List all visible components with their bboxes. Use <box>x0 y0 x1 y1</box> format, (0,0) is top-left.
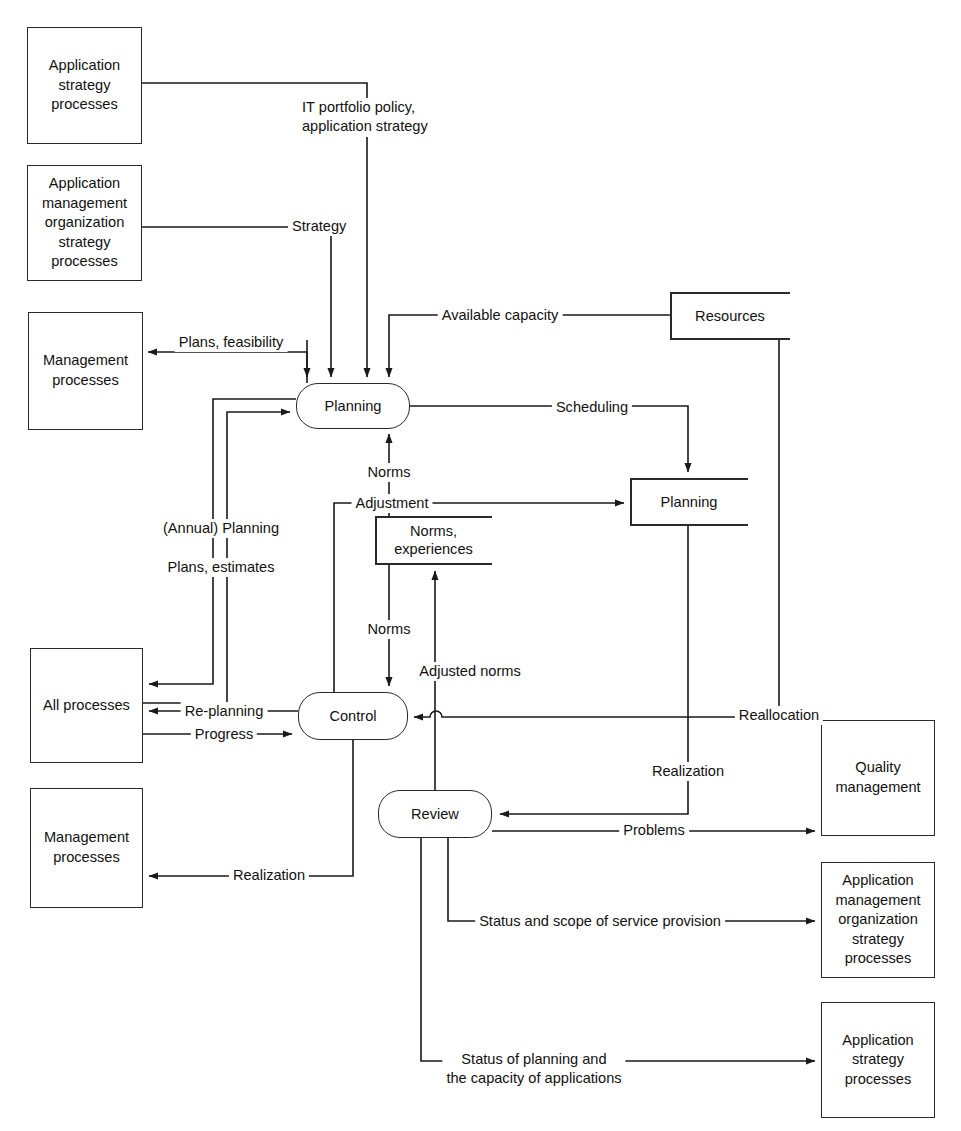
flow-label-realization-right: Realization <box>648 762 728 781</box>
external-entity-management-processes-top: Managementprocesses <box>28 312 143 430</box>
process-planning: Planning <box>296 383 410 429</box>
flow-label-adjusted-norms: Adjusted norms <box>415 662 524 681</box>
process-control: Control <box>298 692 408 740</box>
flow-label-norms-down: Norms <box>364 620 415 639</box>
flow-label-plans-feasibility: Plans, feasibility <box>175 333 288 352</box>
external-entity-quality-management: Qualitymanagement <box>821 720 935 836</box>
external-entity-application-management-organization-strategy-processes-bottom: Applicationmanagementorganizationstrateg… <box>821 862 935 978</box>
external-entity-application-strategy-processes-top: Applicationstrategyprocesses <box>27 27 142 144</box>
datastore-planning-label: Planning <box>630 493 748 512</box>
external-entity-management-processes-bottom: Managementprocesses <box>30 788 143 908</box>
flow-label-re-planning: Re-planning <box>181 702 268 721</box>
flow-label-status-scope-service: Status and scope of service provision <box>475 912 725 931</box>
flow-label-status-planning-capacity: Status of planning andthe capacity of ap… <box>442 1050 625 1089</box>
flow-label-norms-up: Norms <box>364 463 415 482</box>
flow-label-annual-planning: (Annual) Planning <box>159 519 283 538</box>
flow-label-strategy: Strategy <box>288 217 350 236</box>
flow-label-it-portfolio-policy: IT portfolio policy,application strategy <box>298 98 432 137</box>
datastore-planning: Planning <box>630 478 748 526</box>
datastore-norms-experiences-label: Norms,experiences <box>375 522 492 560</box>
external-entity-application-management-organization-strategy-processes-top: Applicationmanagementorganizationstrateg… <box>27 165 142 281</box>
flow-label-reallocation: Reallocation <box>735 706 823 725</box>
diagram-canvas: Applicationstrategyprocesses Application… <box>0 0 961 1131</box>
datastore-resources: Resources <box>670 292 790 340</box>
flow-label-plans-estimates: Plans, estimates <box>163 558 278 577</box>
flow-label-adjustment: Adjustment <box>351 494 432 513</box>
connector-layer <box>0 0 961 1131</box>
flow-label-scheduling: Scheduling <box>552 398 632 417</box>
process-review: Review <box>378 790 492 838</box>
datastore-norms-experiences: Norms,experiences <box>375 516 492 565</box>
flow-label-available-capacity: Available capacity <box>438 306 563 325</box>
flow-label-realization-left: Realization <box>229 866 309 885</box>
flow-label-progress: Progress <box>191 725 257 744</box>
external-entity-all-processes: All processes <box>30 648 143 763</box>
flow-label-problems: Problems <box>619 821 689 840</box>
datastore-resources-label: Resources <box>670 307 790 326</box>
external-entity-application-strategy-processes-bottom: Applicationstrategyprocesses <box>821 1002 935 1118</box>
